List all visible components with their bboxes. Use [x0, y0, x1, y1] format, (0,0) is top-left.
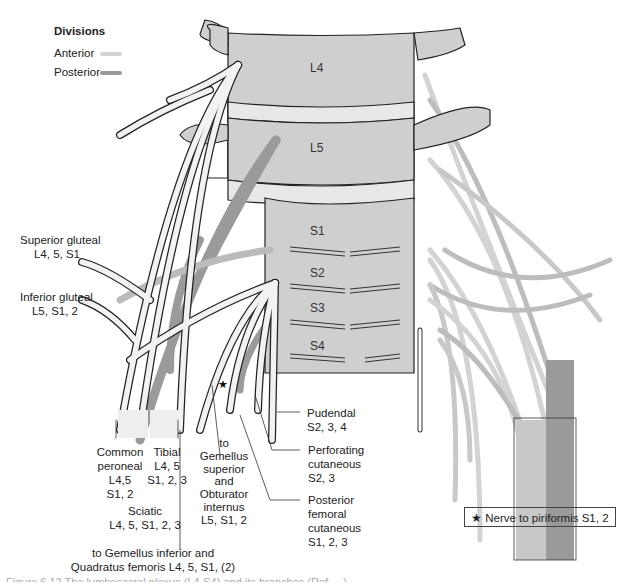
common-peroneal-roots2: S1, 2 [92, 487, 148, 501]
common-peroneal-roots1: L4,5 [92, 473, 148, 487]
common-peroneal-name2: peroneal [92, 459, 148, 473]
pudendal-name: Pudendal [307, 406, 356, 420]
tibial-label: Tibial L4, 5 S1, 2, 3 [142, 445, 192, 487]
sciatic-roots: L4, 5, S1, 2, 3 [95, 518, 195, 532]
legend-posterior: Posterior [54, 66, 100, 78]
piriformis-key-box: ★ Nerve to piriformis S1, 2 [464, 507, 616, 527]
tibial-roots2: S1, 2, 3 [142, 473, 192, 487]
lumbosacral-plexus-diagram: L4 L5 S1 S2 S3 S4 [0, 0, 627, 584]
vertebra-s2-label: S2 [310, 266, 325, 280]
superior-gluteal-label: Superior gluteal L4, 5, S1 [20, 233, 94, 261]
pfc-roots: S1, 2, 3 [308, 535, 361, 549]
legend-title: Divisions [54, 25, 105, 37]
anterior-swatch-icon [100, 52, 122, 56]
vertebra-l5-label: L5 [310, 141, 324, 155]
gemellus-superior-l6: internus [196, 501, 252, 514]
gemellus-superior-l3: superior [196, 463, 252, 476]
common-peroneal-name1: Common [92, 445, 148, 459]
posterior-femoral-cutaneous-label: Posterior femoral cutaneous S1, 2, 3 [308, 493, 361, 549]
gemellus-superior-l2: Gemellus [196, 450, 252, 463]
vertebra-s1-label: S1 [310, 224, 325, 238]
gemellus-inferior-label: to Gemellus inferior and Quadratus femor… [58, 546, 248, 574]
piriformis-key-text: Nerve to piriformis S1, 2 [485, 512, 608, 524]
legend-anterior: Anterior [54, 47, 94, 59]
vertebra-l4-label: L4 [310, 61, 324, 75]
tibial-name: Tibial [142, 445, 192, 459]
sciatic-name: Sciatic [95, 504, 195, 518]
legend-posterior-label: Posterior [54, 66, 100, 78]
sciatic-label: Sciatic L4, 5, S1, 2, 3 [95, 504, 195, 532]
gemellus-superior-l5: Obturator [196, 488, 252, 501]
superior-gluteal-roots: L4, 5, S1 [20, 247, 94, 261]
superior-gluteal-name: Superior gluteal [20, 233, 94, 247]
inferior-gluteal-roots: L5, S1, 2 [20, 304, 90, 318]
perforating-cutaneous-label: Perforating cutaneous S2, 3 [308, 443, 364, 485]
pudendal-roots: S2, 3, 4 [307, 420, 356, 434]
gemellus-superior-l1: to [196, 437, 252, 450]
perforating-cutaneous-name2: cutaneous [308, 457, 364, 471]
tibial-roots1: L4, 5 [142, 459, 192, 473]
gemellus-superior-l4: and [196, 475, 252, 488]
piriformis-star-icon: ★ [218, 378, 228, 390]
inferior-gluteal-name: Inferior gluteal [20, 290, 90, 304]
vertebra-s4-label: S4 [310, 339, 325, 353]
perforating-cutaneous-roots: S2, 3 [308, 471, 364, 485]
gemellus-inferior-line1: to Gemellus inferior and [58, 546, 248, 560]
right-plexus [420, 75, 610, 560]
pfc-name1: Posterior [308, 493, 361, 507]
pudendal-label: Pudendal S2, 3, 4 [307, 406, 356, 434]
perforating-cutaneous-name1: Perforating [308, 443, 364, 457]
gemellus-superior-l7: L5, S1, 2 [196, 514, 252, 527]
pfc-name2: femoral [308, 507, 361, 521]
posterior-swatch-icon [100, 71, 122, 75]
gemellus-superior-label: to Gemellus superior and Obturator inter… [196, 437, 252, 527]
legend-anterior-label: Anterior [54, 47, 94, 59]
vertebra-s3-label: S3 [310, 301, 325, 315]
inferior-gluteal-label: Inferior gluteal L5, S1, 2 [20, 290, 90, 318]
common-peroneal-label: Common peroneal L4,5 S1, 2 [92, 445, 148, 501]
gemellus-inferior-line2: Quadratus femoris L4, 5, S1, (2) [58, 560, 248, 574]
pfc-name3: cutaneous [308, 521, 361, 535]
star-icon: ★ [471, 512, 482, 524]
